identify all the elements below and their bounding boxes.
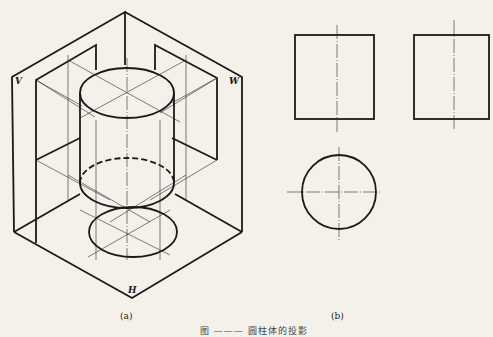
front-view-rect bbox=[295, 35, 374, 119]
side-view-rect bbox=[414, 35, 489, 119]
label-v-plane: V bbox=[15, 76, 22, 86]
label-h-plane: H bbox=[128, 285, 137, 295]
cylinder-h-projection bbox=[89, 207, 177, 257]
figure-b-orthographic bbox=[287, 20, 489, 242]
figure-caption: 图 ——— 圆柱体的投影 bbox=[200, 324, 308, 337]
label-w-plane: W bbox=[229, 76, 239, 86]
figure-a-isometric bbox=[12, 12, 242, 298]
caption-b: (b) bbox=[331, 311, 344, 321]
caption-a: (a) bbox=[120, 311, 132, 321]
